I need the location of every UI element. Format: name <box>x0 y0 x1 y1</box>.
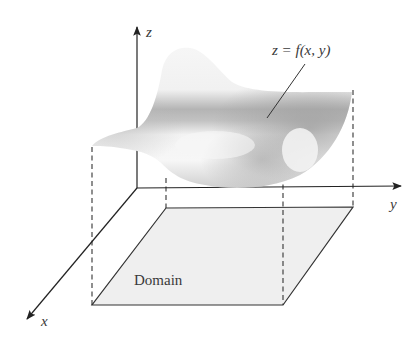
domain-region <box>92 207 353 305</box>
figure-canvas: z = f(x, y) Domain z y x <box>0 0 410 346</box>
surface-label: z = f(x, y) <box>271 42 330 59</box>
domain-label: Domain <box>134 272 183 288</box>
y-axis-label: y <box>388 196 397 212</box>
domain-parallelogram <box>92 207 353 305</box>
z-axis-label: z <box>145 24 152 40</box>
diagram-svg: z = f(x, y) Domain z y x <box>0 0 410 346</box>
x-axis-label: x <box>40 313 48 329</box>
surface <box>80 40 360 200</box>
y-axis <box>137 186 401 188</box>
